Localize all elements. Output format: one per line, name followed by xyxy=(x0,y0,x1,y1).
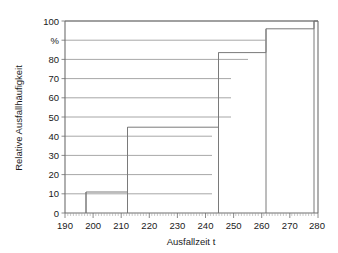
x-axis-title: Ausfallzeit t xyxy=(167,236,216,247)
y-axis-title: Relative Ausfallhäufigkeit xyxy=(13,65,24,171)
x-tick-label: 220 xyxy=(141,220,157,231)
x-tick-label: 260 xyxy=(254,220,270,231)
y-tick-label: 30 xyxy=(48,150,59,161)
y-tick-label: 40 xyxy=(48,131,59,142)
x-tick-label: 250 xyxy=(226,220,242,231)
x-tick-label: 210 xyxy=(113,220,129,231)
chart-container: Relative Ausfallhäufigkeit 100 % 80 70 6… xyxy=(0,0,338,253)
y-tick-label: 100 xyxy=(43,16,59,27)
x-tick-label: 190 xyxy=(57,220,73,231)
x-tick-label: 270 xyxy=(282,220,298,231)
x-tick-labels: 190 200 210 220 230 240 250 260 270 280 xyxy=(57,220,325,231)
x-tick-marks xyxy=(65,213,318,218)
x-tick-label: 240 xyxy=(198,220,214,231)
y-tick-label: 20 xyxy=(48,169,59,180)
step-chart: Relative Ausfallhäufigkeit 100 % 80 70 6… xyxy=(0,0,338,253)
x-tick-label: 280 xyxy=(309,220,325,231)
grid-lines xyxy=(65,21,318,194)
y-tick-label: 50 xyxy=(48,112,59,123)
y-tick-label: 70 xyxy=(48,73,59,84)
y-tick-labels: 100 % 80 70 60 50 40 30 20 10 0 xyxy=(43,16,59,219)
y-tick-label: 80 xyxy=(48,54,59,65)
y-tick-label: % xyxy=(51,35,60,46)
y-tick-label: 10 xyxy=(48,188,59,199)
x-tick-label: 200 xyxy=(85,220,101,231)
x-tick-label: 230 xyxy=(169,220,185,231)
y-tick-label: 0 xyxy=(54,208,59,219)
y-tick-label: 60 xyxy=(48,92,59,103)
